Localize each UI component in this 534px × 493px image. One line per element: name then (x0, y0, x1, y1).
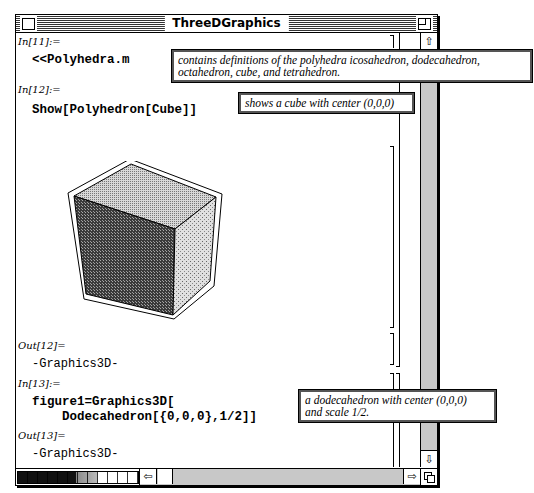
horizontal-scrollbar[interactable]: ⇦ ⇨ (139, 469, 420, 485)
annotation-cube: shows a cube with center (0,0,0) (238, 92, 415, 114)
input-cell-polyhedra[interactable]: <<Polyhedra.m (32, 53, 130, 67)
zoom-box-button[interactable] (418, 18, 431, 30)
cell-bracket-out-12[interactable] (390, 333, 394, 365)
output-cell-12: -Graphics3D- (32, 357, 118, 371)
scroll-up-arrow-icon[interactable]: ⇧ (421, 33, 437, 50)
cell-label-out-13: Out[13]= (18, 430, 66, 441)
annotation-cube-text: shows a cube with center (0,0,0) (245, 97, 408, 109)
cell-label-in-13: In[13]:= (18, 378, 61, 389)
title-bar[interactable]: ThreeDGraphics (16, 15, 437, 33)
horizontal-scroll-thumb[interactable] (158, 469, 173, 484)
cube-graphic[interactable] (46, 161, 226, 321)
cell-bracket-graphic[interactable] (390, 146, 394, 328)
annotation-polyhedra-line2: octahedron, cube, and tetrahedron. (178, 66, 526, 78)
annotation-dodecahedron-line2: and scale 1/2. (305, 406, 490, 418)
annotation-dodecahedron: a dodecahedron with center (0,0,0) and s… (298, 389, 497, 423)
scroll-down-arrow-icon[interactable]: ⇩ (421, 450, 437, 467)
cell-label-in-11: In[11]:= (18, 36, 61, 47)
bottom-bar: ⇦ ⇨ (16, 468, 437, 485)
input-cell-figure1-line2[interactable]: Dodecahedron[{0,0,0},1/2]] (32, 410, 257, 424)
scroll-right-arrow-icon[interactable]: ⇨ (403, 469, 420, 484)
annotation-polyhedra: contains definitions of the polyhedra ic… (171, 49, 533, 83)
cell-group-bracket-12[interactable] (396, 33, 400, 367)
close-box-button[interactable] (22, 18, 35, 30)
resize-grow-box-icon[interactable] (420, 469, 437, 485)
scroll-left-arrow-icon[interactable]: ⇦ (140, 469, 157, 484)
cell-label-out-12: Out[12]= (18, 340, 66, 351)
magnification-slider[interactable] (17, 471, 139, 484)
output-cell-13: -Graphics3D- (32, 447, 118, 461)
cell-bracket[interactable] (390, 35, 394, 48)
cell-label-in-12: In[12]:= (18, 84, 61, 95)
annotation-polyhedra-line1: contains definitions of the polyhedra ic… (178, 54, 526, 66)
annotation-dodecahedron-line1: a dodecahedron with center (0,0,0) (305, 394, 490, 406)
input-cell-figure1-line1[interactable]: figure1=Graphics3D[ (32, 395, 175, 409)
input-cell-show-cube[interactable]: Show[Polyhedron[Cube]] (32, 103, 197, 117)
window-title: ThreeDGraphics (164, 15, 288, 32)
